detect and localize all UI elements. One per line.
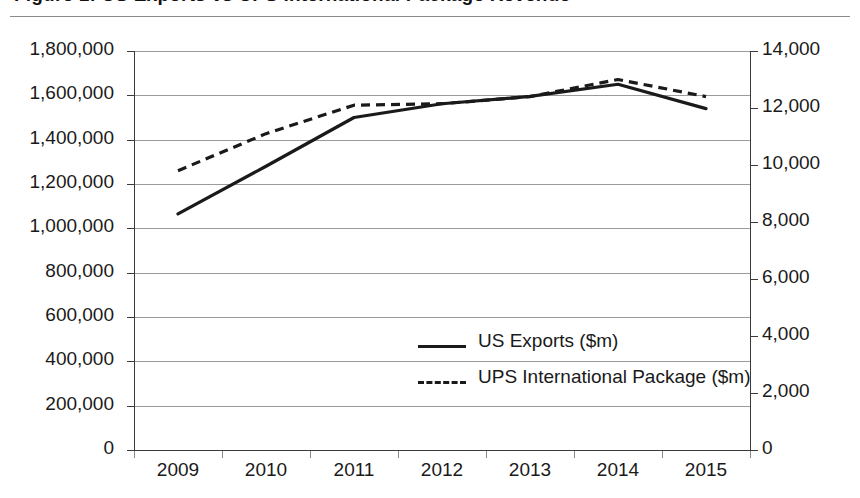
- right-axis-label: 6,000: [762, 266, 810, 288]
- x-axis-label: 2014: [573, 459, 663, 481]
- x-axis-tick: [222, 451, 223, 458]
- right-axis-label: 2,000: [762, 380, 810, 402]
- left-axis-tick: [127, 450, 134, 451]
- title-divider: [10, 16, 850, 17]
- right-axis-tick: [751, 450, 758, 451]
- left-axis-tick: [127, 317, 134, 318]
- legend-label-us-exports: US Exports ($m): [478, 330, 618, 352]
- left-axis-label: 600,000: [45, 304, 114, 326]
- right-axis-label: 4,000: [762, 323, 810, 345]
- x-axis-tick: [398, 451, 399, 458]
- left-axis-tick: [127, 95, 134, 96]
- legend-swatch-solid: [418, 345, 466, 348]
- right-axis-tick: [751, 165, 758, 166]
- left-axis-tick: [127, 406, 134, 407]
- right-axis-tick: [751, 336, 758, 337]
- x-axis-label: 2011: [309, 459, 399, 481]
- chart-figure: Figure 1: US Exports vs UPS Internationa…: [0, 0, 860, 498]
- x-axis-tick: [134, 451, 135, 458]
- left-axis-tick: [127, 273, 134, 274]
- right-axis-label: 10,000: [762, 152, 820, 174]
- bottom-axis-line: [134, 450, 751, 451]
- left-axis-tick: [127, 361, 134, 362]
- left-axis-label: 400,000: [45, 348, 114, 370]
- x-axis-label: 2013: [485, 459, 575, 481]
- x-axis-label: 2010: [221, 459, 311, 481]
- x-axis-label: 2015: [661, 459, 751, 481]
- left-axis-label: 1,800,000: [29, 38, 114, 60]
- chart-title-strip: Figure 1: US Exports vs UPS Internationa…: [0, 0, 860, 14]
- left-axis-label: 1,000,000: [29, 215, 114, 237]
- left-axis-tick: [127, 184, 134, 185]
- right-axis-tick: [751, 108, 758, 109]
- right-axis-label: 8,000: [762, 209, 810, 231]
- series-line-ups-international-package: [178, 80, 706, 171]
- right-axis-tick: [751, 279, 758, 280]
- legend-label-ups-international-package: UPS International Package ($m): [478, 366, 750, 388]
- left-axis-label: 0: [103, 437, 114, 459]
- right-axis-tick: [751, 393, 758, 394]
- right-axis-tick: [751, 222, 758, 223]
- left-axis-tick: [127, 51, 134, 52]
- left-axis-label: 1,200,000: [29, 171, 114, 193]
- page-title: Figure 1: US Exports vs UPS Internationa…: [14, 0, 570, 6]
- series-plot: [134, 51, 750, 450]
- right-axis-tick: [751, 51, 758, 52]
- x-axis-tick: [310, 451, 311, 458]
- x-axis-label: 2009: [133, 459, 223, 481]
- x-axis-tick: [486, 451, 487, 458]
- right-axis-label: 12,000: [762, 95, 820, 117]
- legend-swatch-dashed: [418, 381, 466, 384]
- left-axis-label: 200,000: [45, 393, 114, 415]
- left-axis-label: 800,000: [45, 260, 114, 282]
- right-axis-line: [750, 51, 751, 451]
- left-axis-tick: [127, 140, 134, 141]
- left-axis-label: 1,600,000: [29, 82, 114, 104]
- x-axis-tick: [662, 451, 663, 458]
- x-axis-label: 2012: [397, 459, 487, 481]
- x-axis-tick: [750, 451, 751, 458]
- right-axis-label: 0: [762, 437, 773, 459]
- left-axis-label: 1,400,000: [29, 127, 114, 149]
- left-axis-tick: [127, 228, 134, 229]
- right-axis-label: 14,000: [762, 38, 820, 60]
- x-axis-tick: [574, 451, 575, 458]
